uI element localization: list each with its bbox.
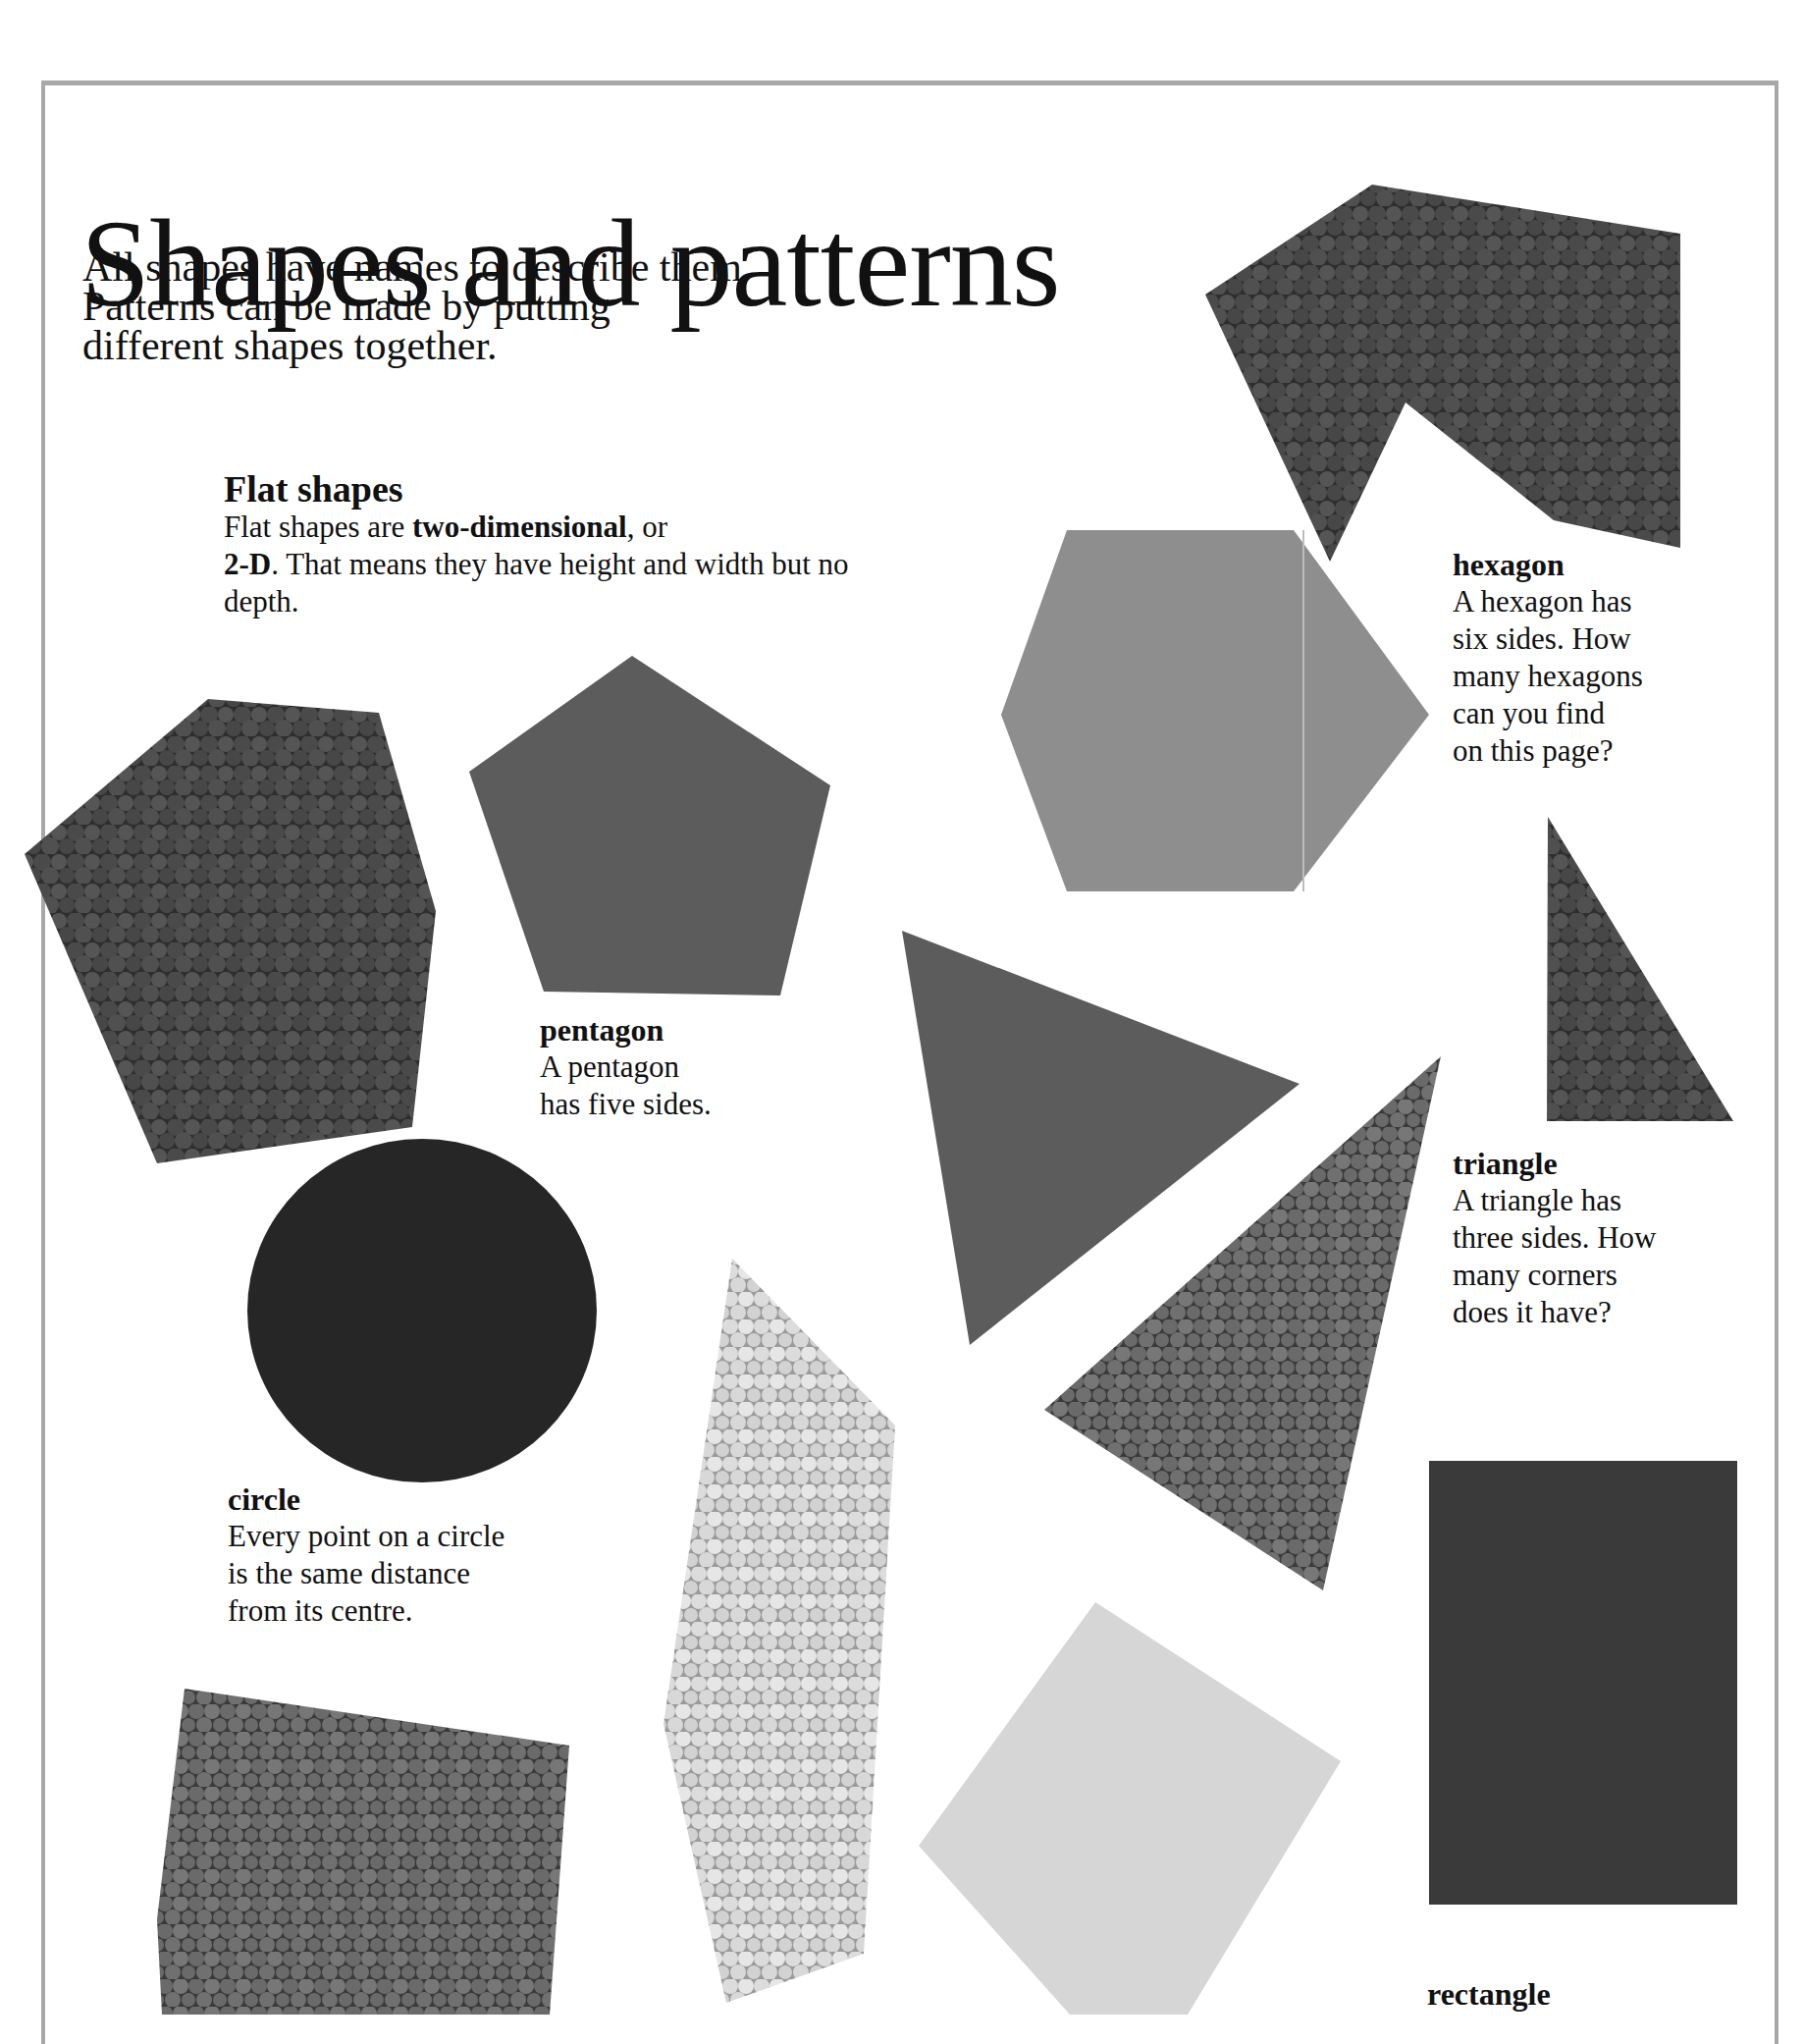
body-text: . That means they have height and width … (224, 547, 849, 619)
shape-desc-line: A triangle has (1453, 1182, 1656, 1219)
circle-shape (247, 1139, 597, 1482)
shape-desc-line: three sides. How (1453, 1219, 1656, 1257)
rectangle-shape (1429, 1461, 1737, 1905)
crumpled-parallelogram-shape (663, 1259, 895, 2003)
shape-name: triangle (1453, 1145, 1656, 1182)
shape-desc-line: A pentagon (540, 1049, 712, 1086)
pentagon-label: pentagon A pentagon has five sides. (540, 1011, 712, 1123)
pentagon-shape (469, 656, 830, 995)
shape-desc-line: is the same distance (228, 1555, 504, 1592)
crumpled-square-shape (157, 1689, 569, 2015)
rectangle-label: rectangle (1427, 1975, 1551, 2013)
shape-desc-line: A hexagon has (1453, 583, 1643, 620)
shape-desc-line: many corners (1453, 1257, 1656, 1294)
intro-line: different shapes together. (82, 326, 966, 365)
crumpled-pentagon-shape (25, 699, 436, 1163)
shape-name: circle (228, 1480, 504, 1518)
body-text: Flat shapes are (224, 510, 412, 544)
section-body: Flat shapes are two-dimensional, or2-D. … (224, 509, 852, 620)
shape-name: rectangle (1427, 1975, 1551, 2013)
triangle-label: triangle A triangle has three sides. How… (1453, 1145, 1656, 1331)
shape-desc-line: many hexagons (1453, 658, 1643, 695)
shape-name: pentagon (540, 1011, 712, 1049)
shape-desc-line: can you find (1453, 695, 1643, 732)
shape-desc-line: does it have? (1453, 1294, 1656, 1331)
term-2d: 2-D (224, 547, 271, 581)
shape-name: hexagon (1453, 546, 1643, 583)
intro-line: All shapes have names to describe them. (82, 247, 966, 287)
term-two-dimensional: two-dimensional (412, 510, 627, 544)
hexagon-label: hexagon A hexagon has six sides. How man… (1453, 546, 1643, 770)
section-heading: Flat shapes (224, 469, 852, 509)
intro-line: Patterns can be made by putting (82, 287, 966, 326)
shape-desc-line: has five sides. (540, 1086, 712, 1123)
pale-square-shape (919, 1602, 1341, 2015)
shape-desc-line: from its centre. (228, 1592, 504, 1630)
body-text: , or (627, 510, 667, 544)
shape-desc-line: six sides. How (1453, 620, 1643, 658)
intro-text: All shapes have names to describe them. … (82, 247, 966, 365)
crumpled-arrow-shape (1205, 185, 1680, 562)
crumpled-right-triangle-shape (1547, 817, 1733, 1121)
shape-desc-line: Every point on a circle (228, 1518, 504, 1555)
circle-label: circle Every point on a circle is the sa… (228, 1480, 504, 1630)
flat-shapes-section: Flat shapes Flat shapes are two-dimensio… (224, 469, 852, 620)
hexagon-shape (1001, 530, 1429, 891)
shape-desc-line: on this page? (1453, 732, 1643, 770)
